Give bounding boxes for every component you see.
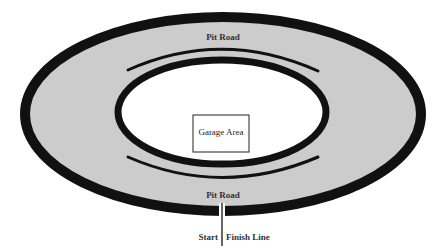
garage-area-label: Garage Area: [198, 128, 243, 137]
race-track-diagram: Pit Road Garage Area Pit Road Start Fini…: [0, 0, 446, 252]
pit-road-bottom-label: Pit Road: [206, 191, 240, 200]
start-label: Start: [199, 233, 219, 242]
pit-road-top-label: Pit Road: [206, 33, 240, 42]
finish-line-label: Finish Line: [226, 233, 270, 242]
